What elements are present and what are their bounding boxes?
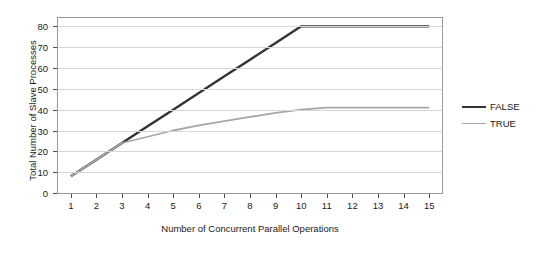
x-tick-label: 6 bbox=[196, 200, 201, 211]
x-tick-mark bbox=[224, 194, 225, 198]
x-axis-title: Number of Concurrent Parallel Operations bbox=[57, 223, 443, 234]
x-tick-label: 11 bbox=[322, 200, 332, 211]
x-tick-mark bbox=[378, 194, 379, 198]
chart-figure: Total Number of Slave Processes 01020304… bbox=[0, 0, 543, 265]
plot-area bbox=[57, 17, 443, 194]
y-tick-label: 20 bbox=[22, 146, 48, 157]
x-tick-mark bbox=[122, 194, 123, 198]
y-tick-label: 80 bbox=[22, 21, 48, 32]
y-tick-mark bbox=[53, 68, 57, 69]
x-tick-label: 14 bbox=[398, 200, 409, 211]
x-tick-label: 13 bbox=[373, 200, 384, 211]
gridline bbox=[58, 172, 442, 173]
y-tick-label: 50 bbox=[22, 83, 48, 94]
x-tick-mark bbox=[276, 194, 277, 198]
x-tick-label: 10 bbox=[296, 200, 307, 211]
x-tick-mark bbox=[327, 194, 328, 198]
gridline bbox=[58, 151, 442, 152]
x-tick-mark bbox=[429, 194, 430, 198]
series-layer bbox=[58, 18, 442, 193]
x-tick-mark bbox=[148, 194, 149, 198]
chart-legend: FALSETRUE bbox=[462, 98, 540, 132]
x-tick-label: 3 bbox=[119, 200, 124, 211]
legend-item-true[interactable]: TRUE bbox=[462, 115, 540, 132]
y-tick-label: 40 bbox=[22, 104, 48, 115]
x-tick-label: 7 bbox=[222, 200, 227, 211]
series-line-false bbox=[71, 26, 429, 176]
y-axis-ticks: 01020304050607080 bbox=[22, 0, 48, 265]
x-tick-label: 8 bbox=[247, 200, 252, 211]
x-tick-label: 1 bbox=[68, 200, 73, 211]
x-tick-label: 15 bbox=[424, 200, 435, 211]
y-tick-label: 30 bbox=[22, 125, 48, 136]
gridline bbox=[58, 26, 442, 27]
y-tick-mark bbox=[53, 193, 57, 194]
x-tick-label: 9 bbox=[273, 200, 278, 211]
series-line-true bbox=[71, 108, 429, 177]
legend-label: TRUE bbox=[490, 119, 516, 129]
x-tick-label: 4 bbox=[145, 200, 150, 211]
legend-label: FALSE bbox=[490, 102, 520, 112]
x-tick-mark bbox=[199, 194, 200, 198]
gridline bbox=[58, 89, 442, 90]
gridline bbox=[58, 131, 442, 132]
x-tick-label: 5 bbox=[171, 200, 176, 211]
gridline bbox=[58, 110, 442, 111]
gridline bbox=[58, 47, 442, 48]
x-tick-mark bbox=[250, 194, 251, 198]
y-tick-mark bbox=[53, 26, 57, 27]
x-tick-mark bbox=[301, 194, 302, 198]
y-tick-label: 60 bbox=[22, 63, 48, 74]
y-tick-mark bbox=[53, 110, 57, 111]
gridline bbox=[58, 68, 442, 69]
x-tick-label: 12 bbox=[347, 200, 358, 211]
y-tick-mark bbox=[53, 89, 57, 90]
legend-swatch-false bbox=[462, 106, 486, 108]
legend-item-false[interactable]: FALSE bbox=[462, 98, 540, 115]
y-tick-label: 0 bbox=[22, 188, 48, 199]
x-tick-mark bbox=[173, 194, 174, 198]
x-tick-mark bbox=[71, 194, 72, 198]
y-tick-label: 70 bbox=[22, 42, 48, 53]
x-tick-mark bbox=[404, 194, 405, 198]
legend-swatch-true bbox=[462, 123, 486, 124]
y-tick-mark bbox=[53, 172, 57, 173]
y-tick-mark bbox=[53, 47, 57, 48]
y-tick-mark bbox=[53, 131, 57, 132]
y-tick-mark bbox=[53, 151, 57, 152]
y-tick-label: 10 bbox=[22, 167, 48, 178]
x-tick-mark bbox=[352, 194, 353, 198]
x-tick-mark bbox=[96, 194, 97, 198]
x-tick-label: 2 bbox=[94, 200, 99, 211]
